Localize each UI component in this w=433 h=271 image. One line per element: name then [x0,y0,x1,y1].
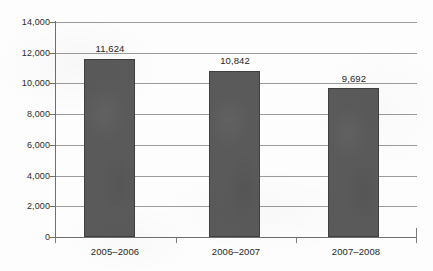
y-tick-mark-8000 [50,114,55,115]
y-axis-label-6000: 6,000 [0,141,50,150]
y-axis-label-2000: 2,000 [0,202,50,211]
category-tick-start [55,237,56,243]
y-axis-label-12000: 12,000 [0,49,50,58]
y-tick-mark-4000 [50,176,55,177]
data-label-2007-2008: 9,692 [314,74,394,84]
gridline-14000 [55,22,417,23]
bar-chart: 14,000 12,000 10,000 8,000 6,000 4,000 2… [0,0,433,271]
bar-2006-2007 [209,71,260,238]
y-tick-mark-2000 [50,206,55,207]
category-tick-end [416,237,417,243]
category-tick-2 [296,237,297,243]
y-axis-label-10000: 10,000 [0,79,50,88]
category-label-2006-2007: 2006–2007 [181,246,291,257]
data-label-2005-2006: 11,624 [70,44,150,54]
category-label-2007-2008: 2007–2008 [301,246,411,257]
bar-2005-2006 [84,59,135,238]
y-axis-label-0: 0 [0,233,50,242]
category-tick-1 [176,237,177,243]
data-label-2006-2007: 10,842 [195,56,275,66]
y-tick-mark-6000 [50,145,55,146]
y-tick-mark-10000 [50,83,55,84]
bar-texture [329,89,378,236]
bar-2007-2008 [328,88,379,237]
bar-texture [85,60,134,237]
y-axis-label-8000: 8,000 [0,110,50,119]
category-label-2005-2006: 2005–2006 [60,246,170,257]
y-tick-mark-14000 [50,22,55,23]
y-axis-label-14000: 14,000 [0,18,50,27]
bar-texture [210,72,259,237]
y-axis-label-4000: 4,000 [0,172,50,181]
y-tick-mark-12000 [50,53,55,54]
axis-baseline [55,237,417,238]
y-axis-line [55,21,56,238]
